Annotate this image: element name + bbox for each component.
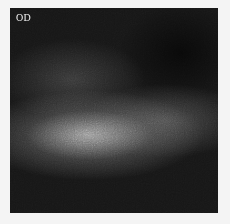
speckle-texture [10,8,218,213]
retinal-scan-image: OD [10,8,218,213]
eye-label: OD [16,12,31,23]
